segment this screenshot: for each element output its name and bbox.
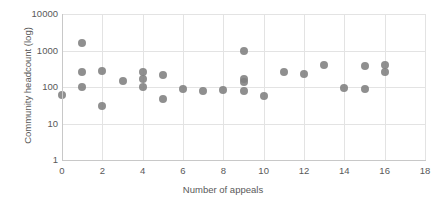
data-point — [78, 83, 86, 91]
data-point — [159, 71, 167, 79]
data-point — [98, 67, 106, 75]
data-point — [240, 78, 248, 86]
data-point — [139, 75, 147, 83]
x-axis-tick-label: 8 — [208, 165, 238, 176]
data-point — [219, 86, 227, 94]
data-point — [179, 85, 187, 93]
gridline-vertical — [102, 14, 103, 160]
data-point — [280, 68, 288, 76]
x-axis-tick-label: 0 — [47, 165, 77, 176]
gridline-vertical — [264, 14, 265, 160]
data-point — [119, 77, 127, 85]
x-axis-line — [62, 160, 426, 161]
data-point — [78, 68, 86, 76]
data-point — [361, 62, 369, 70]
x-axis-tick-label: 12 — [289, 165, 319, 176]
plot-area — [62, 14, 425, 160]
data-point — [78, 39, 86, 47]
chart-figure: 110100100010000 Community headcount (log… — [0, 0, 446, 212]
x-axis-tick-label: 2 — [87, 165, 117, 176]
x-axis-tick-label: 16 — [370, 165, 400, 176]
data-point — [260, 92, 268, 100]
gridline-vertical — [425, 14, 426, 160]
x-axis-tick-label: 6 — [168, 165, 198, 176]
data-point — [98, 102, 106, 110]
y-axis-title-wrapper: Community headcount (log) — [8, 0, 24, 175]
y-axis-line — [62, 14, 63, 161]
y-axis-title: Community headcount (log) — [22, 11, 33, 161]
gridline-vertical — [385, 14, 386, 160]
x-axis-tick-label: 18 — [410, 165, 440, 176]
data-point — [240, 87, 248, 95]
gridline-vertical — [304, 14, 305, 160]
data-point — [159, 95, 167, 103]
x-axis-tick-label: 10 — [249, 165, 279, 176]
gridline-horizontal — [62, 124, 425, 125]
data-point — [340, 84, 348, 92]
data-point — [240, 47, 248, 55]
x-axis-tick-label: 14 — [329, 165, 359, 176]
data-point — [320, 61, 328, 69]
x-axis-title: Number of appeals — [0, 184, 446, 195]
data-point — [381, 68, 389, 76]
data-point — [199, 87, 207, 95]
data-point — [300, 70, 308, 78]
gridline-horizontal — [62, 14, 425, 15]
x-axis-tick-label: 4 — [128, 165, 158, 176]
data-point — [361, 85, 369, 93]
data-point — [139, 83, 147, 91]
